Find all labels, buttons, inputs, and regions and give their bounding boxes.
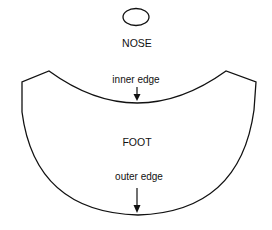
outer-edge-arrow-icon — [134, 188, 141, 213]
inner-edge-label: inner edge — [112, 74, 159, 85]
foot-label: FOOT — [122, 136, 151, 148]
inner-edge-arrow-icon — [134, 87, 141, 101]
nose-shape — [123, 9, 149, 26]
outer-edge-label: outer edge — [115, 171, 163, 182]
nose-label: NOSE — [122, 37, 152, 49]
diagram-canvas — [0, 0, 272, 230]
